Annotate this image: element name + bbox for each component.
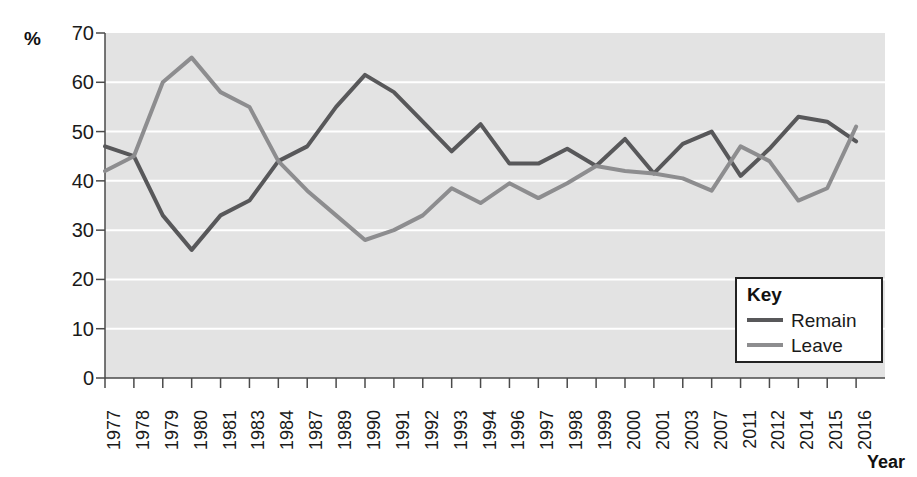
x-tick-label-1987: 1987: [307, 410, 325, 450]
legend-label-remain: Remain: [791, 311, 856, 330]
x-tick-label-1993: 1993: [452, 410, 470, 450]
x-tick-label-1978: 1978: [134, 410, 152, 450]
x-tick-label-1998: 1998: [567, 410, 585, 450]
x-tick-label-1994: 1994: [481, 410, 499, 450]
x-tick-label-1979: 1979: [163, 410, 181, 450]
x-tick-label-1984: 1984: [278, 410, 296, 450]
x-tick-label-1980: 1980: [192, 410, 210, 450]
x-tick-label-1983: 1983: [249, 410, 267, 450]
x-tick-label-1992: 1992: [423, 410, 441, 450]
legend-item-leave: Leave: [747, 333, 881, 358]
x-tick-label-1981: 1981: [221, 410, 239, 450]
x-tick-label-1999: 1999: [596, 410, 614, 450]
x-tick-label-2014: 2014: [798, 410, 816, 450]
x-tick-label-1989: 1989: [336, 410, 354, 450]
x-tick-label-2016: 2016: [856, 410, 874, 450]
x-tick-label-2007: 2007: [712, 410, 730, 450]
legend: Key Remain Leave: [735, 277, 883, 363]
x-tick-label-2003: 2003: [683, 410, 701, 450]
x-axis-tick-labels: 1977197819791980198119831984198719891990…: [0, 396, 917, 476]
legend-label-leave: Leave: [791, 336, 843, 355]
x-tick-label-2000: 2000: [625, 410, 643, 450]
x-tick-label-2001: 2001: [654, 410, 672, 450]
x-axis-title: Year: [867, 452, 905, 473]
line-chart: % 706050403020100 1977197819791980198119…: [0, 0, 917, 477]
legend-title: Key: [747, 285, 881, 306]
x-tick-label-1997: 1997: [538, 410, 556, 450]
x-tick-label-2012: 2012: [769, 410, 787, 450]
legend-swatch-remain: [747, 318, 783, 322]
x-tick-label-2011: 2011: [741, 410, 759, 449]
legend-item-remain: Remain: [747, 308, 881, 333]
x-tick-label-1990: 1990: [365, 410, 383, 450]
x-tick-label-1977: 1977: [105, 410, 123, 450]
x-tick-label-2015: 2015: [827, 410, 845, 450]
x-tick-label-1996: 1996: [509, 410, 527, 450]
x-tick-label-1991: 1991: [394, 410, 412, 450]
legend-swatch-leave: [747, 343, 783, 347]
